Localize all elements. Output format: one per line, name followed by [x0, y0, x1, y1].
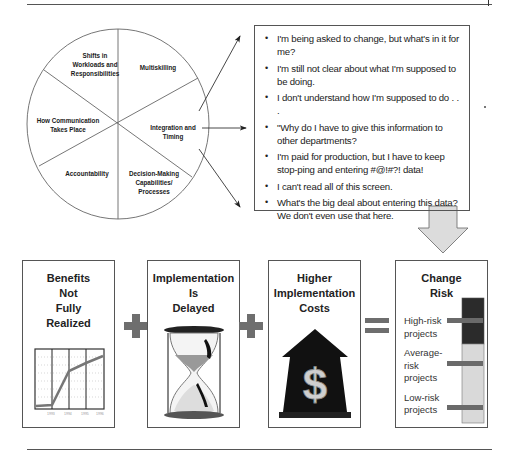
costs-title: Higher Implementation Costs	[269, 271, 360, 316]
benefits-title: Benefits Not Fully Realized	[23, 271, 114, 331]
plus-operator-icon	[238, 313, 264, 339]
benefits-box: Benefits Not Fully Realized 1993 1994 19…	[22, 260, 115, 428]
svg-text:$: $	[303, 360, 327, 409]
segment-accountability: Accountability	[61, 169, 113, 178]
wheel-arrows	[199, 36, 246, 207]
segment-integration-timing: Integration andTiming	[141, 123, 206, 141]
concern-item: I can't read all of this screen.	[265, 180, 461, 193]
segment-communication: How CommunicationTakes Place	[32, 116, 104, 134]
costs-box: Higher Implementation Costs $	[268, 260, 361, 428]
concern-item: "Why do I have to give this information …	[265, 121, 461, 147]
change-risk-box: Change Risk High-riskprojects Average-ri…	[395, 260, 488, 428]
risk-meter-icon	[396, 261, 489, 429]
svg-text:1993: 1993	[47, 412, 55, 416]
svg-text:1996: 1996	[96, 412, 104, 416]
stray-mark	[484, 106, 486, 108]
bottom-rule	[27, 449, 492, 450]
delay-title: Implementation Is Delayed	[148, 271, 239, 316]
line-chart-icon: 1993 1994 1995 1996	[23, 339, 116, 419]
hourglass-icon	[148, 325, 241, 425]
segment-decision-making: Decision-MakingCapabilities/Processes	[121, 169, 188, 196]
concern-item: What's the big deal about entering this …	[265, 196, 461, 222]
segment-multiskilling: Multiskilling	[131, 63, 185, 72]
svg-text:1994: 1994	[64, 412, 72, 416]
concern-item: I'm paid for production, but I have to k…	[265, 150, 461, 176]
segment-shifts-in-workloads: Shifts inWorkloads andResponsibilities	[64, 51, 127, 78]
employee-concerns-box: I'm being asked to change, but what's in…	[254, 25, 470, 211]
concern-item: I'm being asked to change, but what's in…	[265, 32, 461, 58]
svg-text:1995: 1995	[81, 412, 89, 416]
delay-box: Implementation Is Delayed	[147, 260, 240, 428]
dollar-up-arrow-icon: $	[269, 327, 362, 422]
plus-operator-icon	[123, 313, 149, 339]
concern-item: I'm still not clear about what I'm suppo…	[265, 62, 461, 88]
concern-item: I don't understand how I'm supposed to d…	[265, 91, 461, 117]
equals-operator-icon	[364, 316, 390, 336]
